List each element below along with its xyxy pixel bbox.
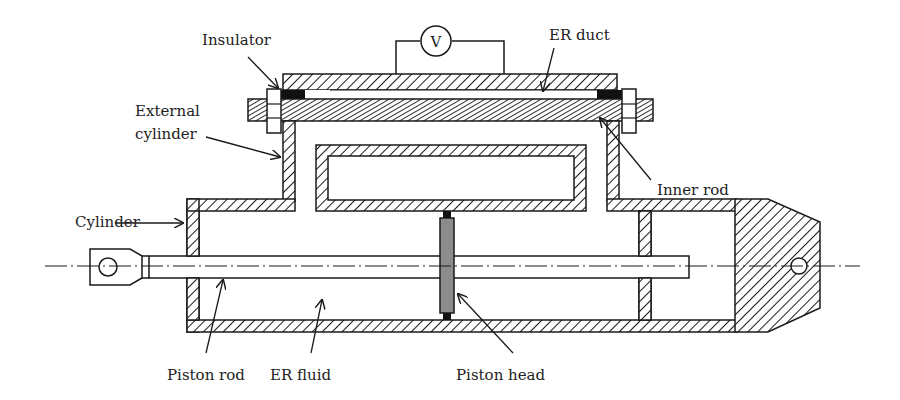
piston-head-label: Piston head: [456, 366, 546, 384]
insulator-label: Insulator: [202, 31, 272, 49]
external-cylinder-left-wall: [283, 121, 295, 201]
rod-eye-hole: [99, 258, 117, 276]
inner-rod: [248, 99, 653, 121]
er-damper-diagram: V: [0, 0, 900, 400]
insulator-right: [597, 90, 622, 99]
piston-rod-label: Piston rod: [167, 366, 245, 384]
er-fluid-label: ER fluid: [270, 366, 331, 384]
cylinder-label: Cylinder: [75, 213, 141, 231]
external-cylinder-label-line2: cylinder: [135, 125, 198, 143]
piston-rod-arrow: [206, 280, 223, 353]
piston-rod: [149, 256, 689, 278]
er-duct-gap: [283, 90, 617, 99]
inner-rod-label: Inner rod: [657, 181, 729, 199]
voltmeter-label: V: [430, 33, 443, 51]
nut-right: [622, 89, 636, 133]
insulator-arrow: [248, 57, 278, 88]
external-cylinder-label-line1: External: [135, 102, 200, 120]
nut-left: [267, 89, 281, 133]
external-cylinder-arrow: [206, 137, 280, 157]
external-cylinder-top-wall: [283, 74, 617, 90]
inner-chamber-block: [316, 145, 586, 211]
rod-eye: [90, 249, 149, 285]
insulator-left: [280, 90, 305, 99]
er-duct-label: ER duct: [549, 26, 610, 44]
